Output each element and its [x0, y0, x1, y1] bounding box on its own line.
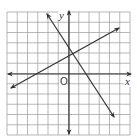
coordinate-plane: y x O: [0, 0, 137, 140]
x-axis-label: x: [124, 75, 130, 87]
steep-line: [47, 14, 114, 117]
y-axis-label: y: [58, 9, 64, 21]
origin-label: O: [60, 76, 68, 87]
